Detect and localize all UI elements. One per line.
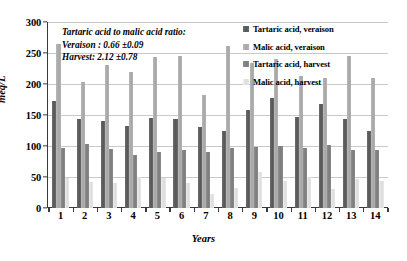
ratio-annotation: Tartaric acid to malic acid ratio: Verai… (62, 26, 186, 64)
x-axis-tick-label: 10 (266, 210, 290, 221)
x-axis-tick-label: 3 (97, 210, 121, 221)
bar (65, 178, 69, 208)
bar-group (194, 22, 218, 208)
chart-figure: meq/L 1234567891011121314 Years Tartaric… (0, 0, 407, 261)
x-axis-tick-label: 8 (218, 210, 242, 221)
bar (89, 182, 93, 208)
y-axis-tick-mark (43, 176, 47, 177)
bar-group (339, 22, 363, 208)
bar (137, 177, 141, 208)
legend-item: Malic acid, harvest (243, 77, 334, 87)
x-axis-tick-label: 14 (363, 210, 387, 221)
bar (331, 189, 335, 208)
bar (234, 188, 238, 208)
x-axis-tick-label: 4 (121, 210, 145, 221)
bar (210, 194, 214, 208)
y-axis-tick-label: 150 (11, 110, 41, 121)
x-axis-tick-label: 5 (145, 210, 169, 221)
x-axis-tick-label: 11 (291, 210, 315, 221)
legend-swatch-icon (243, 44, 249, 50)
y-axis-tick-mark (43, 21, 47, 22)
x-axis-labels: 1234567891011121314 (48, 210, 387, 221)
x-axis-tick-label: 12 (315, 210, 339, 221)
y-axis-tick-label: 100 (11, 141, 41, 152)
x-axis-tick-label: 2 (73, 210, 97, 221)
x-axis-tick-label: 1 (48, 210, 72, 221)
y-axis-tick-label: 250 (11, 48, 41, 59)
y-axis-tick-mark (43, 83, 47, 84)
annotation-line-1: Tartaric acid to malic acid ratio: (62, 26, 186, 39)
legend-swatch-icon (243, 61, 249, 67)
y-axis-tick-mark (43, 207, 47, 208)
bar (258, 172, 262, 208)
legend-swatch-icon (243, 79, 249, 85)
legend-item: Tartaric acid, veraison (243, 24, 334, 34)
annotation-line-3: Harvest: 2.12 ±0.78 (62, 51, 186, 64)
bar (355, 179, 359, 208)
x-axis-tick-label: 7 (194, 210, 218, 221)
x-axis-tick-mark (387, 208, 388, 212)
x-axis-tick-label: 9 (242, 210, 266, 221)
y-axis-tick-label: 0 (11, 203, 41, 214)
legend-swatch-icon (243, 26, 249, 32)
bar (113, 183, 117, 208)
chart-legend: Tartaric acid, veraisonMalic acid, verai… (243, 24, 334, 87)
y-axis-tick-mark (43, 145, 47, 146)
y-axis-tick-mark (43, 52, 47, 53)
y-axis-tick-label: 50 (11, 172, 41, 183)
bar (283, 181, 287, 208)
annotation-line-2: Veraison : 0.66 ±0.09 (62, 39, 186, 52)
bar (379, 181, 383, 208)
bar (161, 178, 165, 208)
x-axis-tick-label: 6 (169, 210, 193, 221)
legend-item: Malic acid, veraison (243, 42, 334, 52)
legend-label: Tartaric acid, harvest (253, 59, 330, 69)
x-axis-tick-label: 13 (339, 210, 363, 221)
bar (307, 177, 311, 208)
bar-group (218, 22, 242, 208)
y-axis-tick-label: 300 (11, 17, 41, 28)
y-axis-tick-label: 200 (11, 79, 41, 90)
bar (186, 183, 190, 208)
x-axis-title: Years (0, 233, 407, 244)
bar-group (363, 22, 387, 208)
legend-label: Malic acid, harvest (253, 77, 321, 87)
legend-item: Tartaric acid, harvest (243, 59, 334, 69)
y-axis-tick-mark (43, 114, 47, 115)
legend-label: Malic acid, veraison (253, 42, 325, 52)
legend-label: Tartaric acid, veraison (253, 24, 334, 34)
y-axis-title: meq/L (0, 76, 7, 103)
